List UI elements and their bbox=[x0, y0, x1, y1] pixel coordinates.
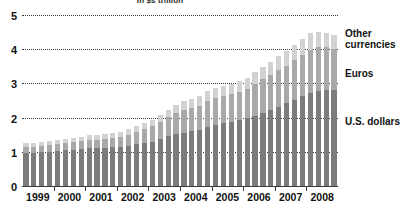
bar-segment-other-currencies bbox=[150, 120, 155, 126]
bar-segment-euros bbox=[150, 126, 155, 141]
bar-segment-u-s-dollars bbox=[173, 134, 178, 186]
bar-segment-other-currencies bbox=[189, 99, 194, 108]
bar-segment-euros bbox=[79, 141, 84, 149]
bar-segment-other-currencies bbox=[213, 88, 218, 98]
bar-segment-other-currencies bbox=[39, 142, 44, 146]
x-axis-tick-2003 bbox=[148, 186, 149, 191]
bar-segment-other-currencies bbox=[324, 33, 329, 47]
bar-segment-other-currencies bbox=[331, 35, 336, 49]
bar-segment-euros bbox=[331, 49, 336, 91]
x-axis-tick-2001 bbox=[85, 186, 86, 191]
bar-segment-euros bbox=[110, 138, 115, 147]
bar-segment-euros bbox=[213, 98, 218, 125]
bar-segment-u-s-dollars bbox=[300, 96, 305, 186]
bar-segment-u-s-dollars bbox=[260, 113, 265, 186]
bar-segment-other-currencies bbox=[55, 140, 60, 144]
x-axis-label-2007: 2007 bbox=[279, 192, 302, 203]
bar-segment-euros bbox=[205, 101, 210, 127]
bar-segment-euros bbox=[221, 96, 226, 123]
bar-segment-euros bbox=[268, 75, 273, 110]
bar-segment-other-currencies bbox=[252, 72, 257, 84]
bar-segment-euros bbox=[300, 55, 305, 97]
x-axis-tick-2008 bbox=[306, 186, 307, 191]
x-axis-tick-2000 bbox=[54, 186, 55, 191]
bar-segment-euros bbox=[47, 145, 52, 152]
bar-segment-u-s-dollars bbox=[110, 147, 115, 186]
bar-segment-other-currencies bbox=[245, 78, 250, 89]
bar-segment-other-currencies bbox=[181, 101, 186, 110]
bar-segment-other-currencies bbox=[173, 105, 178, 113]
bar-segment-u-s-dollars bbox=[284, 103, 289, 186]
bar-segment-other-currencies bbox=[79, 137, 84, 141]
x-axis-tick-2007 bbox=[275, 186, 276, 191]
bar-segment-other-currencies bbox=[23, 143, 28, 147]
bar-segment-u-s-dollars bbox=[55, 151, 60, 186]
x-axis-tick-2002 bbox=[117, 186, 118, 191]
legend-label-us-dollars: U.S. dollars bbox=[345, 116, 400, 127]
bar-segment-euros bbox=[23, 147, 28, 153]
bar-segment-other-currencies bbox=[237, 81, 242, 92]
y-axis-tick-label-3: 3 bbox=[11, 79, 17, 90]
bar-segment-other-currencies bbox=[205, 91, 210, 101]
x-axis-label-2006: 2006 bbox=[247, 192, 270, 203]
bar-segment-u-s-dollars bbox=[150, 142, 155, 186]
bar-segment-euros bbox=[229, 94, 234, 121]
bar-segment-u-s-dollars bbox=[276, 107, 281, 186]
bar-segment-other-currencies bbox=[268, 62, 273, 75]
bar-segment-other-currencies bbox=[166, 110, 171, 118]
bar-segment-u-s-dollars bbox=[308, 93, 313, 186]
bar-segment-u-s-dollars bbox=[87, 148, 92, 186]
bar-segment-euros bbox=[94, 140, 99, 149]
bar-segment-euros bbox=[197, 106, 202, 130]
x-axis-tick-2004 bbox=[180, 186, 181, 191]
bar-segment-u-s-dollars bbox=[331, 90, 336, 186]
bar-segment-u-s-dollars bbox=[292, 100, 297, 186]
bar-segment-euros bbox=[55, 144, 60, 151]
bar-segment-u-s-dollars bbox=[316, 91, 321, 186]
y-axis-tick-label-1: 1 bbox=[11, 147, 17, 158]
bar-segment-u-s-dollars bbox=[39, 152, 44, 186]
bar-segment-euros bbox=[245, 89, 250, 118]
x-axis-tick-2006 bbox=[243, 186, 244, 191]
bar-segment-u-s-dollars bbox=[245, 118, 250, 186]
bar-segment-u-s-dollars bbox=[142, 143, 147, 186]
bar-segment-other-currencies bbox=[110, 133, 115, 138]
y-axis-tick-label-5: 5 bbox=[11, 11, 17, 22]
bar-segment-u-s-dollars bbox=[63, 150, 68, 186]
bar-segment-other-currencies bbox=[63, 139, 68, 143]
bar-segment-other-currencies bbox=[31, 143, 36, 147]
bar-segment-euros bbox=[71, 142, 76, 150]
bar-segment-euros bbox=[324, 47, 329, 90]
bar-segment-other-currencies bbox=[118, 132, 123, 137]
bar-segment-euros bbox=[237, 92, 242, 120]
bar-segment-u-s-dollars bbox=[229, 122, 234, 186]
bar-segment-other-currencies bbox=[229, 84, 234, 95]
bar-segment-euros bbox=[316, 47, 321, 91]
bar-segment-euros bbox=[126, 135, 131, 146]
bar-segment-u-s-dollars bbox=[252, 116, 257, 186]
bar-segment-u-s-dollars bbox=[31, 153, 36, 186]
bar-segment-u-s-dollars bbox=[181, 133, 186, 186]
bar-segment-other-currencies bbox=[94, 135, 99, 140]
bar-segment-euros bbox=[173, 113, 178, 134]
bar-segment-u-s-dollars bbox=[237, 120, 242, 186]
bar-segment-euros bbox=[308, 50, 313, 93]
x-axis: 1999200020012002200320042005200620072008 bbox=[22, 186, 338, 214]
y-axis-tick-label-2: 2 bbox=[11, 113, 17, 124]
x-axis-label-2003: 2003 bbox=[153, 192, 176, 203]
bar-segment-u-s-dollars bbox=[126, 146, 131, 186]
bar-segment-euros bbox=[158, 122, 163, 139]
x-axis-label-2000: 2000 bbox=[58, 192, 81, 203]
chart-title: In $s trillion bbox=[0, 0, 320, 5]
bar-segment-euros bbox=[260, 79, 265, 113]
bar-segment-other-currencies bbox=[134, 126, 139, 132]
bar-segment-euros bbox=[284, 66, 289, 104]
x-axis-label-2004: 2004 bbox=[184, 192, 207, 203]
bar-segment-other-currencies bbox=[292, 45, 297, 60]
x-axis-label-1999: 1999 bbox=[26, 192, 49, 203]
bar-segment-euros bbox=[39, 146, 44, 152]
x-axis-label-2002: 2002 bbox=[121, 192, 144, 203]
bar-segment-other-currencies bbox=[221, 86, 226, 96]
bar-segment-euros bbox=[63, 143, 68, 150]
bar-segment-euros bbox=[189, 108, 194, 131]
